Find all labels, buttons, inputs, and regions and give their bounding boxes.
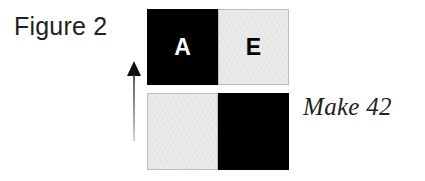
top-bar: A E xyxy=(147,9,289,85)
bottom-bar xyxy=(147,93,289,170)
side-annotation: Make 42 xyxy=(303,94,392,119)
figure-canvas: Figure 2 A E xyxy=(0,0,425,181)
top-bar-right-letter: E xyxy=(246,36,261,59)
bottom-bar-left-half xyxy=(147,93,218,170)
top-bar-right-half: E xyxy=(218,9,289,85)
upward-arrow-icon xyxy=(125,60,143,142)
arrow-up-glyph xyxy=(125,60,143,142)
bottom-bar-right-half xyxy=(218,93,289,170)
figure-caption: Figure 2 xyxy=(14,14,107,39)
top-bar-left-letter: A xyxy=(174,36,191,59)
top-bar-left-half: A xyxy=(147,9,218,85)
